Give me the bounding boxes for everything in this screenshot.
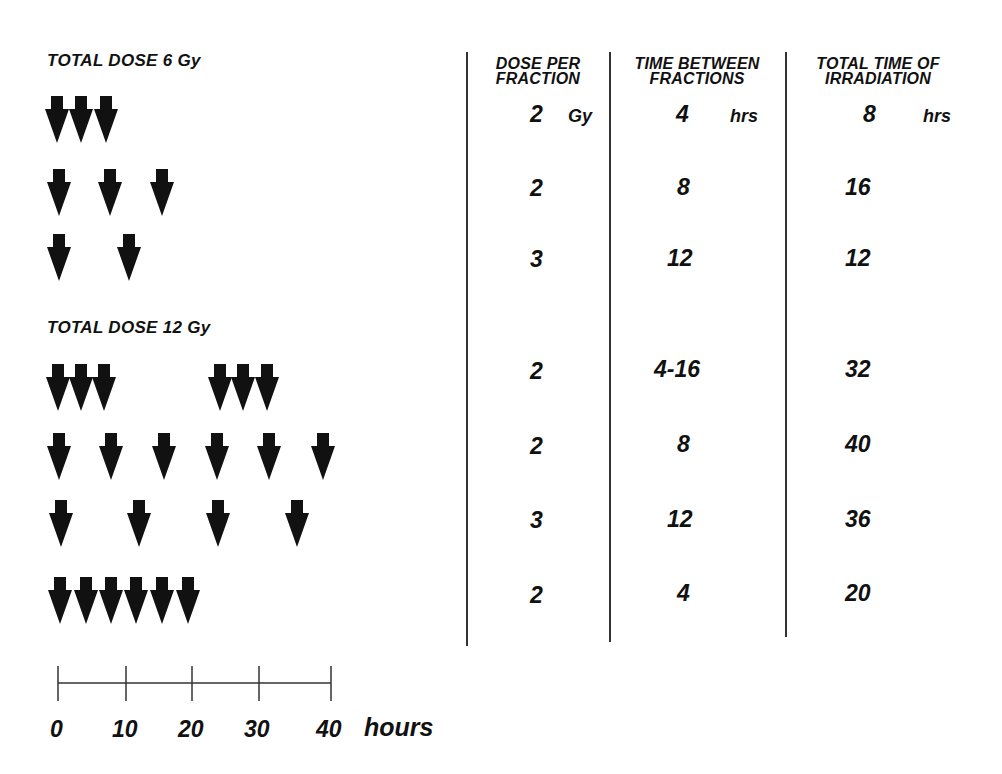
row-1-dose: 2: [530, 101, 543, 128]
row-1-between: 4: [676, 101, 689, 128]
row-4-dose: 2: [530, 358, 543, 385]
arrow-down-icon: [255, 364, 279, 411]
fraction-arrows: [0, 0, 1002, 774]
axis-unit-label: hours: [364, 713, 433, 742]
axis-tick-40: 40: [316, 716, 342, 743]
row-5-between: 8: [677, 431, 690, 458]
axis-tick-30: 30: [244, 716, 270, 743]
arrow-down-icon: [99, 577, 123, 624]
arrow-down-icon: [176, 577, 200, 624]
arrow-down-icon: [92, 364, 116, 411]
arrow-down-icon: [311, 433, 335, 480]
header-time-between-fractions: TIME BETWEEN FRACTIONS: [611, 56, 783, 86]
axis-tick-0: 0: [50, 716, 63, 743]
row-2-between: 8: [677, 174, 690, 201]
arrow-down-icon: [94, 96, 118, 143]
arrow-down-icon: [69, 96, 93, 143]
arrow-down-icon: [74, 577, 98, 624]
arrow-down-icon: [206, 500, 230, 547]
header-line: TIME BETWEEN: [611, 56, 783, 71]
arrow-down-icon: [231, 364, 255, 411]
row-3-total: 12: [845, 245, 871, 272]
arrow-down-icon: [47, 234, 71, 281]
arrow-down-icon: [99, 433, 123, 480]
schedule-row-4-arrows: [46, 364, 279, 411]
arrow-down-icon: [150, 577, 174, 624]
row-1-total-unit: hrs: [923, 106, 951, 127]
row-7-dose: 2: [530, 582, 543, 609]
axis-tick-20: 20: [178, 716, 204, 743]
arrow-down-icon: [117, 234, 141, 281]
arrow-down-icon: [45, 96, 69, 143]
arrow-down-icon: [205, 433, 229, 480]
arrow-down-icon: [69, 364, 93, 411]
axis-tick-10: 10: [112, 716, 138, 743]
header-line: DOSE PER: [470, 56, 606, 71]
row-2-dose: 2: [530, 175, 543, 202]
arrow-down-icon: [46, 364, 70, 411]
row-1-dose-unit: Gy: [568, 106, 592, 127]
column-divider-2: [609, 52, 611, 642]
schedule-row-1-arrows: [45, 96, 118, 143]
row-6-dose: 3: [530, 507, 543, 534]
arrow-down-icon: [152, 433, 176, 480]
row-4-total: 32: [845, 356, 871, 383]
arrow-down-icon: [124, 577, 148, 624]
row-1-between-unit: hrs: [730, 106, 758, 127]
row-5-total: 40: [845, 431, 871, 458]
header-line: TOTAL TIME OF: [790, 56, 966, 71]
column-divider-1: [466, 52, 468, 646]
row-3-between: 12: [667, 245, 693, 272]
time-axis: [58, 666, 331, 701]
row-4-between: 4-16: [654, 356, 700, 383]
arrow-down-icon: [49, 500, 73, 547]
arrow-down-icon: [127, 500, 151, 547]
row-5-dose: 2: [530, 433, 543, 460]
row-3-dose: 3: [530, 246, 543, 273]
header-total-time-irradiation: TOTAL TIME OF IRRADIATION: [790, 56, 966, 86]
row-7-between: 4: [677, 580, 690, 607]
header-dose-per-fraction: DOSE PER FRACTION: [470, 56, 606, 86]
arrow-down-icon: [285, 500, 309, 547]
row-2-total: 16: [845, 174, 871, 201]
arrow-down-icon: [47, 433, 71, 480]
row-7-total: 20: [845, 580, 871, 607]
header-line: IRRADIATION: [790, 71, 966, 86]
column-divider-3: [785, 52, 787, 637]
header-line: FRACTION: [470, 71, 606, 86]
arrow-down-icon: [47, 169, 71, 216]
schedule-row-6-arrows: [49, 500, 309, 547]
header-line: FRACTIONS: [611, 71, 783, 86]
schedule-row-2-arrows: [47, 169, 174, 216]
schedule-row-5-arrows: [47, 433, 335, 480]
arrow-down-icon: [150, 169, 174, 216]
row-6-between: 12: [667, 506, 693, 533]
row-1-total: 8: [863, 101, 876, 128]
arrow-down-icon: [257, 433, 281, 480]
arrow-down-icon: [48, 577, 72, 624]
arrow-down-icon: [208, 364, 232, 411]
schedule-row-7-arrows: [48, 577, 200, 624]
row-6-total: 36: [845, 506, 871, 533]
arrow-down-icon: [98, 169, 122, 216]
schedule-row-3-arrows: [47, 234, 141, 281]
